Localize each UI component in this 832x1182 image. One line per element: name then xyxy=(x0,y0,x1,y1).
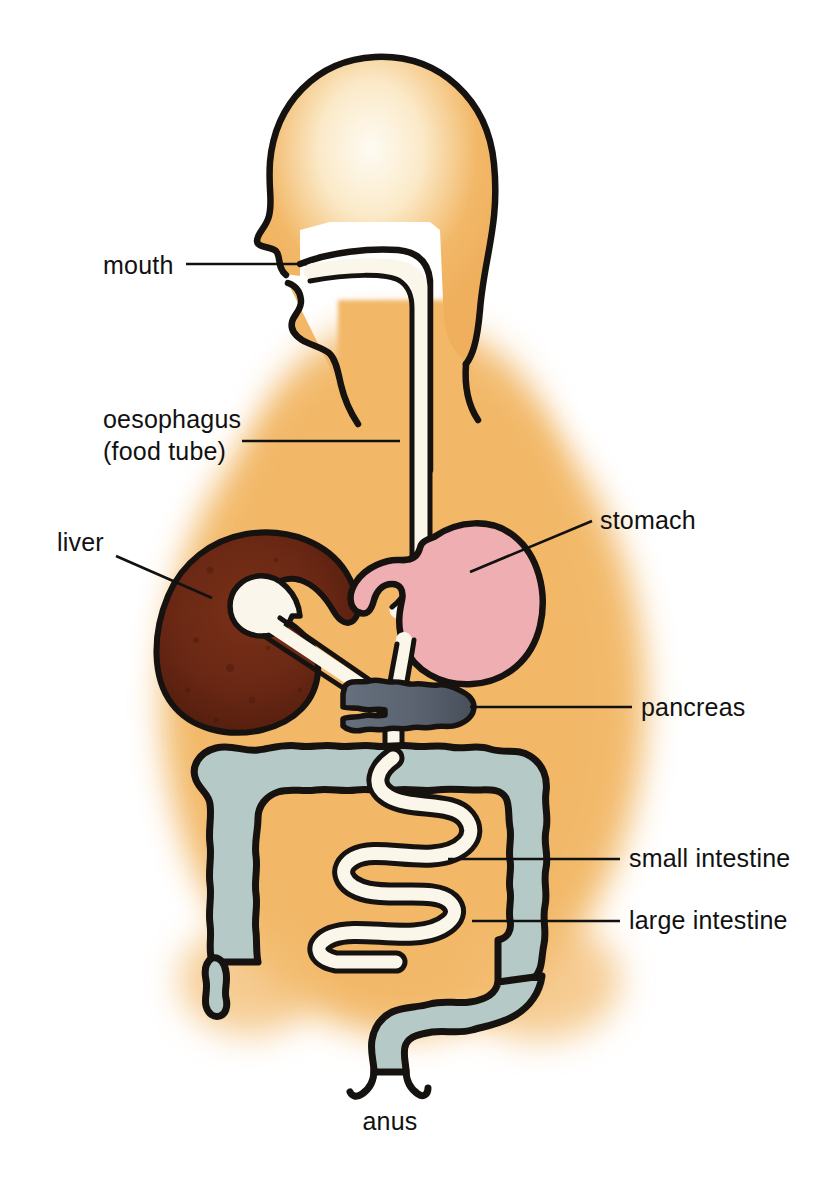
label-stomach: stomach xyxy=(600,506,696,534)
label-liver: liver xyxy=(57,528,104,556)
label-small-intestine: small intestine xyxy=(629,844,790,872)
appendix xyxy=(205,958,227,1017)
pancreas-organ xyxy=(343,680,474,731)
label-oesophagus: oesophagus xyxy=(103,405,241,433)
diagram-canvas: mouth oesophagus (food tube) liver stoma… xyxy=(0,0,832,1182)
digestive-system-diagram: mouth oesophagus (food tube) liver stoma… xyxy=(0,0,832,1182)
label-anus: anus xyxy=(362,1107,417,1135)
label-oesophagus-sub: (food tube) xyxy=(103,437,226,465)
label-large-intestine: large intestine xyxy=(629,906,788,934)
label-pancreas: pancreas xyxy=(641,693,745,721)
label-mouth: mouth xyxy=(103,251,173,279)
